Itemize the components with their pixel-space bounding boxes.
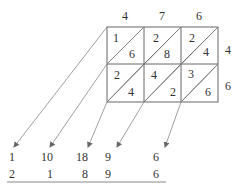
result-digit-1: 2 <box>9 168 15 180</box>
cell-r2c2-ones: 2 <box>170 86 176 98</box>
diagonal-sum-3: 18 <box>76 151 88 163</box>
side-digit-2: 6 <box>225 80 231 92</box>
cell-r2c2-tens: 4 <box>151 69 157 81</box>
arrow-diagonal-3 <box>88 102 107 147</box>
top-digit-3: 6 <box>196 10 202 22</box>
diagonal-sum-5: 6 <box>153 151 159 163</box>
top-digit-1: 4 <box>122 10 128 22</box>
lattice-grid <box>107 27 218 102</box>
diagonal-sum-2: 10 <box>41 151 53 163</box>
cell-r2c1-tens: 2 <box>114 69 120 81</box>
arrow-diagonal-4 <box>117 102 144 147</box>
arrow-diagonal-5 <box>165 102 181 147</box>
result-digit-5: 6 <box>153 168 159 180</box>
sum-arrows <box>14 27 181 147</box>
cell-r1c2-ones: 8 <box>164 48 170 60</box>
cell-r1c3-ones: 4 <box>203 46 209 58</box>
cell-r2c1-ones: 4 <box>128 86 134 98</box>
cell-r1c2-tens: 2 <box>153 32 159 44</box>
cell-r1c3-tens: 2 <box>189 32 195 44</box>
cell-r1c1-tens: 1 <box>113 32 119 44</box>
arrow-diagonal-2 <box>50 64 107 147</box>
diagonal-sum-4: 9 <box>105 151 111 163</box>
cell-r2c3-tens: 3 <box>188 68 194 80</box>
top-digit-2: 7 <box>159 10 165 22</box>
lattice-diagram <box>0 0 239 190</box>
result-digit-3: 8 <box>82 168 88 180</box>
cell-r2c3-ones: 6 <box>205 86 211 98</box>
cell-r1c1-ones: 6 <box>129 48 135 60</box>
diagonal-sum-1: 1 <box>9 151 15 163</box>
side-digit-1: 4 <box>225 44 231 56</box>
result-digit-4: 9 <box>105 168 111 180</box>
result-digit-2: 1 <box>47 168 53 180</box>
arrow-diagonal-1 <box>14 27 107 147</box>
